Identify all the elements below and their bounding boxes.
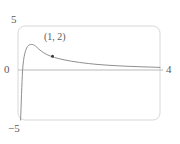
marked-point-dot	[51, 55, 54, 58]
viewing-window-frame	[18, 26, 160, 120]
origin-label: 0	[4, 64, 10, 75]
plot-canvas	[0, 0, 180, 144]
graph-figure: 5 0 −5 4 (1, 2)	[0, 0, 180, 144]
y-axis-max-label: 5	[11, 14, 17, 25]
curve-path	[21, 44, 160, 120]
point-coordinate-label: (1, 2)	[44, 32, 66, 42]
x-axis-max-label: 4	[166, 64, 172, 75]
y-axis-min-label: −5	[8, 123, 20, 134]
